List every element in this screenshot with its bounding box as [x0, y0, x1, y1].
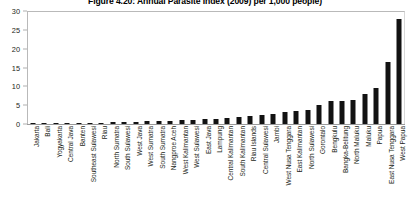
x-axis: JakartaBaliYogyakartaCentral JavaBantenS… [27, 125, 405, 207]
x-axis-label-slot: North Maluku [348, 125, 359, 207]
bar-slot [245, 11, 256, 124]
bar-slot [279, 11, 290, 124]
x-axis-label-slot: West Nusa Tenggara [279, 125, 290, 207]
x-axis-label-slot: North Sulawesi [302, 125, 313, 207]
bar [133, 122, 138, 124]
x-axis-label-slot: Yogyakarta [50, 125, 61, 207]
x-axis-label-slot: North Sumatra [107, 125, 118, 207]
bar [282, 112, 287, 124]
bar [305, 110, 310, 124]
bar [99, 123, 104, 125]
x-axis-label-slot: East Kalimantan [290, 125, 301, 207]
y-axis-tick-label: 20 [12, 44, 20, 53]
bar-slot [233, 11, 244, 124]
x-axis-label-slot: Nangproe Aceh [164, 125, 175, 207]
x-axis-label-slot: Southeast Sulawesi [84, 125, 95, 207]
bar-slot [359, 11, 370, 124]
bar [328, 101, 333, 124]
bar [42, 123, 47, 124]
x-axis-label-slot: South Sulawesi [119, 125, 130, 207]
x-axis-label-slot: South Sumatra [153, 125, 164, 207]
y-axis-tick-label: 15 [12, 63, 20, 72]
x-axis-label-slot: Central Kalimantan [222, 125, 233, 207]
x-axis-label-slot: Bangka-Belitung [336, 125, 347, 207]
bar [225, 118, 230, 124]
x-axis-label-slot: Central Java [61, 125, 72, 207]
bar-slot [61, 11, 72, 124]
bar-slot [38, 11, 49, 124]
bar-slot [142, 11, 153, 124]
bar [362, 94, 367, 124]
x-axis-label-slot: East Java [199, 125, 210, 207]
x-axis-label-slot: West Java [130, 125, 141, 207]
bar [294, 111, 299, 124]
bar-slot [371, 11, 382, 124]
bar [179, 120, 184, 124]
bar-slot [27, 11, 38, 124]
bar [259, 115, 264, 124]
bar-slot [153, 11, 164, 124]
x-axis-label-slot: South Kalimantan [233, 125, 244, 207]
x-axis-label-slot: Banten [73, 125, 84, 207]
bar [397, 19, 402, 124]
y-axis-tick-label: 30 [12, 7, 20, 16]
bar [76, 123, 81, 124]
bar-slot [336, 11, 347, 124]
bar [145, 121, 150, 124]
bar [65, 123, 70, 124]
bar-slot [222, 11, 233, 124]
x-axis-label-slot: Lampung [210, 125, 221, 207]
x-axis-label-slot: Riau [96, 125, 107, 207]
bar-slot [107, 11, 118, 124]
x-axis-label-slot: West Sumatra [142, 125, 153, 207]
bar [317, 105, 322, 124]
bar [30, 123, 35, 124]
x-axis-label-slot: West Sulawesi [187, 125, 198, 207]
bar-slot [256, 11, 267, 124]
bar-slot [96, 11, 107, 124]
bar-slot [290, 11, 301, 124]
bar [248, 116, 253, 124]
bar-slot [50, 11, 61, 124]
bar [202, 119, 207, 124]
bar-slot [302, 11, 313, 124]
x-axis-label-slot: East Nusa Tenggara [382, 125, 393, 207]
bar [191, 120, 196, 124]
bar [168, 121, 173, 124]
x-axis-label-slot: Bengkulu [325, 125, 336, 207]
bar-slot [199, 11, 210, 124]
bar [53, 123, 58, 124]
y-axis: 051015202530 [0, 0, 27, 207]
x-axis-tick-label: West Papua [399, 126, 406, 161]
x-axis-label-slot: Jakarta [27, 125, 38, 207]
bar-slot [348, 11, 359, 124]
bar-slot [84, 11, 95, 124]
bar-slot [176, 11, 187, 124]
bar [122, 122, 127, 124]
x-axis-label-slot: West Papua [394, 125, 405, 207]
y-axis-tick-label: 10 [12, 82, 20, 91]
y-axis-tick-label: 0 [16, 120, 20, 129]
x-axis-label-slot: Maluku [359, 125, 370, 207]
bar [374, 88, 379, 124]
bar [271, 114, 276, 124]
chart-title: Figure 4.20: Annual Parasite Index (2009… [0, 0, 410, 6]
bar [87, 123, 92, 125]
x-axis-label-slot: Papua [371, 125, 382, 207]
bar [110, 122, 115, 124]
x-axis-label-slot: Central Sulawesi [256, 125, 267, 207]
bars-group [27, 11, 405, 124]
bar [156, 121, 161, 124]
bar [339, 101, 344, 124]
bar [385, 62, 390, 124]
bar-slot [382, 11, 393, 124]
bar-slot [164, 11, 175, 124]
x-axis-label-slot: Jambi [268, 125, 279, 207]
bar-slot [119, 11, 130, 124]
bar-slot [210, 11, 221, 124]
bar-slot [187, 11, 198, 124]
y-axis-tick-label: 5 [16, 101, 20, 110]
bar [351, 100, 356, 124]
bar-slot [313, 11, 324, 124]
bar [213, 119, 218, 124]
